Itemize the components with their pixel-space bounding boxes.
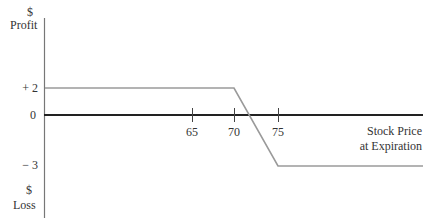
y-label-loss: Loss: [13, 199, 36, 212]
payoff-diagram: [0, 0, 439, 219]
x-axis-title-line2: at Expiration: [320, 140, 422, 153]
y-tick-label-minus3: − 3: [0, 159, 38, 172]
y-label-profit: Profit: [10, 19, 37, 32]
x-tick-label-70: 70: [219, 126, 249, 139]
x-axis-title-line1: Stock Price: [320, 125, 422, 138]
y-tick-label-0: 0: [0, 109, 36, 122]
y-label-loss-symbol: $: [22, 184, 36, 197]
x-tick-label-75: 75: [263, 126, 293, 139]
x-tick-label-65: 65: [177, 126, 207, 139]
y-tick-label-plus2: + 2: [0, 82, 38, 95]
